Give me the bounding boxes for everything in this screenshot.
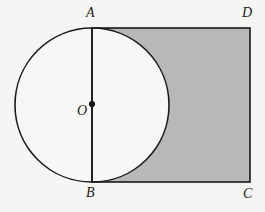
center-label-o: O <box>77 104 87 118</box>
center-point-dot <box>89 101 95 107</box>
vertex-label-b: B <box>86 186 95 200</box>
vertex-label-d: D <box>242 6 252 20</box>
geometry-figure: A D B C O <box>0 0 265 212</box>
vertex-label-a: A <box>86 6 95 20</box>
vertex-label-c: C <box>243 187 252 201</box>
geometry-canvas <box>0 0 265 212</box>
